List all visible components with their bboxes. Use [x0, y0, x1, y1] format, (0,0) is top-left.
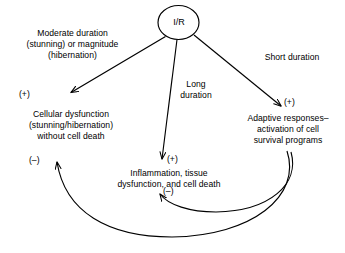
label-adaptive-responses: Adaptive responses– activation of cell s… — [232, 113, 344, 147]
sign-plus-adaptive: (+) — [284, 97, 295, 107]
node-ir-label: I/R — [162, 17, 196, 27]
label-short-duration: Short duration — [240, 52, 344, 63]
sign-minus-cellular: (–) — [29, 155, 40, 165]
sign-plus-inflammation: (+) — [167, 154, 178, 164]
diagram-canvas: I/R Moderate duration (stunning) or magn… — [0, 0, 345, 253]
sign-minus-inflammation: (–) — [163, 186, 174, 196]
label-long-duration: Long duration — [160, 79, 232, 101]
label-moderate-duration: Moderate duration (stunning) or magnitud… — [5, 28, 140, 62]
label-cellular-dysfunction: Cellular dysfunction (stunning/hibernati… — [3, 109, 139, 143]
sign-plus-cellular: (+) — [19, 89, 30, 99]
